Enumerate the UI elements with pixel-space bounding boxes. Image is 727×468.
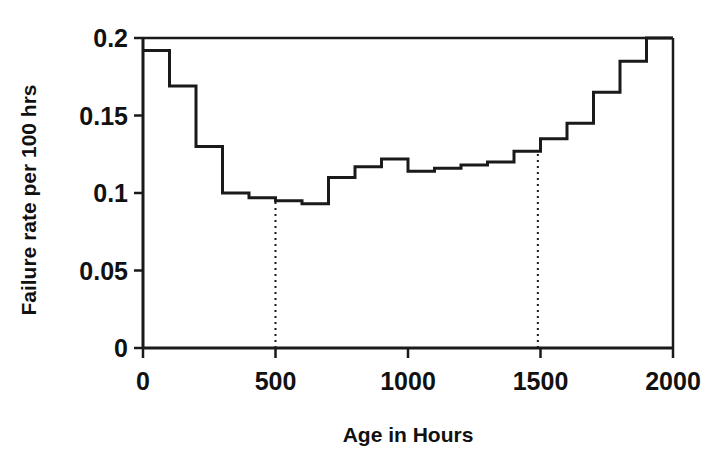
x-tick-label: 0 xyxy=(136,367,150,395)
x-tick-label: 1500 xyxy=(513,367,569,395)
chart-background xyxy=(0,0,727,468)
y-axis-title: Failure rate per 100 hrs xyxy=(17,84,40,315)
x-tick-label: 500 xyxy=(255,367,297,395)
y-tick-label: 0.2 xyxy=(93,24,128,52)
x-tick-label: 1000 xyxy=(380,367,436,395)
x-axis-title: Age in Hours xyxy=(343,423,474,446)
failure-rate-chart-figure: Failure rate per 100 hrs 00.050.10.150.2… xyxy=(0,0,727,468)
y-tick-label: 0.15 xyxy=(79,102,128,130)
chart-canvas: Failure rate per 100 hrs 00.050.10.150.2… xyxy=(0,0,727,468)
y-tick-label: 0.1 xyxy=(93,179,128,207)
x-tick-label: 2000 xyxy=(645,367,701,395)
y-tick-label: 0 xyxy=(114,334,128,362)
y-tick-label: 0.05 xyxy=(79,257,128,285)
